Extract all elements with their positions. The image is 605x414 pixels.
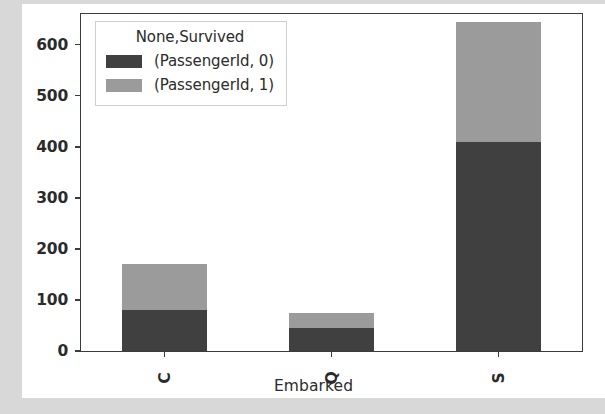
plot-axes: 0100200300400500600 CQS None,Survived (P…: [80, 13, 583, 352]
legend-item[interactable]: (PassengerId, 1): [106, 73, 274, 97]
x-tick-mark: [331, 351, 333, 357]
y-tick-label: 600: [8, 36, 68, 54]
y-tick-label: 300: [8, 189, 68, 207]
y-tick-label: 0: [8, 342, 68, 360]
y-tick-mark: [75, 248, 81, 250]
x-tick-mark: [164, 351, 166, 357]
bar-segment[interactable]: [122, 310, 207, 351]
y-tick-mark: [75, 197, 81, 199]
bar-segment[interactable]: [289, 328, 374, 351]
legend-title: None,Survived: [106, 28, 274, 46]
x-axis-label: Embarked: [22, 377, 605, 395]
page-background: 0100200300400500600 CQS None,Survived (P…: [0, 0, 605, 414]
chart-legend: None,Survived (PassengerId, 0) (Passenge…: [95, 21, 287, 106]
bar-segment[interactable]: [456, 142, 541, 351]
y-tick-mark: [75, 350, 81, 352]
y-tick-label: 100: [8, 291, 68, 309]
bar-segment[interactable]: [456, 22, 541, 141]
legend-swatch-icon: [106, 55, 142, 68]
y-tick-mark: [75, 44, 81, 46]
y-tick-label: 200: [8, 240, 68, 258]
y-tick-mark: [75, 146, 81, 148]
bar-segment[interactable]: [289, 313, 374, 328]
x-tick-mark: [498, 351, 500, 357]
legend-item-label: (PassengerId, 0): [154, 52, 274, 70]
bar-stack[interactable]: [289, 313, 374, 351]
bar-stack[interactable]: [122, 264, 207, 351]
y-tick-mark: [75, 95, 81, 97]
bar-stack[interactable]: [456, 22, 541, 351]
y-tick-label: 500: [8, 87, 68, 105]
bar-segment[interactable]: [122, 264, 207, 309]
legend-item-label: (PassengerId, 1): [154, 76, 274, 94]
legend-item[interactable]: (PassengerId, 0): [106, 49, 274, 73]
y-tick-mark: [75, 299, 81, 301]
legend-swatch-icon: [106, 79, 142, 92]
y-tick-label: 400: [8, 138, 68, 156]
figure-canvas: 0100200300400500600 CQS None,Survived (P…: [22, 4, 605, 398]
